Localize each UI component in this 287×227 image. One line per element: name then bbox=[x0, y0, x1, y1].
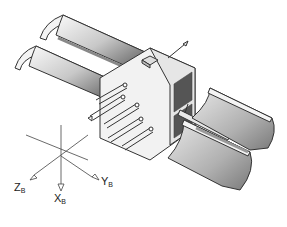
z-axis-sub: B bbox=[21, 187, 26, 194]
body-axes bbox=[26, 125, 99, 191]
y-axis-label: YB bbox=[101, 176, 113, 188]
z-axis-main: Z bbox=[14, 181, 21, 193]
x-axis-sub: B bbox=[61, 198, 66, 205]
y-axis-sub: B bbox=[108, 181, 113, 188]
z-axis-label: ZB bbox=[14, 182, 25, 194]
satellite-diagram bbox=[0, 0, 287, 227]
x-axis-label: XB bbox=[54, 193, 66, 205]
z-axis-arrow-icon bbox=[30, 175, 37, 180]
x-axis-arrow-icon bbox=[58, 184, 64, 191]
y-axis-arrow-icon bbox=[92, 174, 99, 180]
